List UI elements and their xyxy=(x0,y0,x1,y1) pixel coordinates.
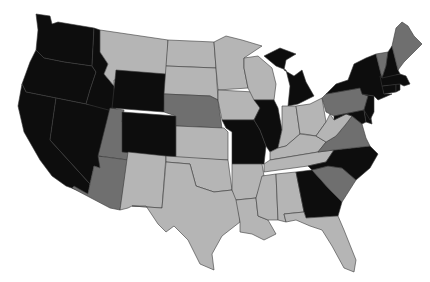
state-NM[interactable] xyxy=(120,152,166,210)
state-CO[interactable] xyxy=(122,112,176,158)
state-KS[interactable] xyxy=(176,126,228,160)
state-ND[interactable] xyxy=(166,40,216,68)
state-ME[interactable] xyxy=(392,22,422,70)
state-RI[interactable] xyxy=(396,84,400,92)
us-choropleth-map xyxy=(0,0,430,282)
state-WY[interactable] xyxy=(112,70,166,112)
state-FL[interactable] xyxy=(284,212,356,272)
